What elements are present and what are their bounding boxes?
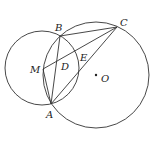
label-M: M: [29, 64, 41, 75]
center-O-dot: [95, 74, 97, 76]
label-A: A: [45, 109, 53, 120]
segment-BA: [51, 36, 60, 104]
label-D: D: [60, 61, 69, 72]
geometry-diagram: A B C M D E O: [0, 0, 154, 142]
label-C: C: [120, 17, 128, 28]
label-O: O: [101, 73, 109, 84]
label-B: B: [54, 22, 62, 33]
label-E: E: [79, 52, 88, 63]
